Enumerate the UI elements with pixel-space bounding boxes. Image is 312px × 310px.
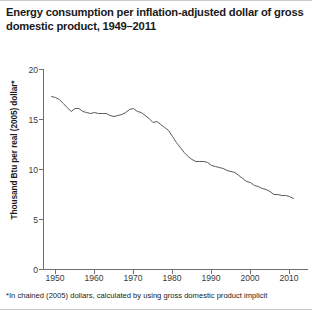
chart-figure: Energy consumption per inflation-adjuste… (0, 0, 312, 310)
y-tick-label: 15 (16, 115, 38, 125)
line-chart-canvas (0, 53, 312, 285)
x-tick-label: 1960 (79, 273, 109, 283)
data-series-line (52, 97, 294, 199)
x-axis-tick-labels: 1950 1960 1970 1980 1990 2000 2010 (0, 269, 312, 289)
chart-footnote: *In chained (2005) dollars, calculated b… (6, 291, 310, 301)
x-tick-label: 1990 (196, 273, 226, 283)
x-tick-label: 2000 (235, 273, 265, 283)
y-tick-label: 5 (16, 215, 38, 225)
plot-area: Thousand Btu per real (2005) dollar* 0 5… (0, 53, 312, 285)
x-tick-label: 2010 (274, 273, 304, 283)
y-tick-label: 20 (16, 65, 38, 75)
y-axis-ticks (39, 70, 44, 270)
x-tick-label: 1980 (157, 273, 187, 283)
x-tick-label: 1950 (40, 273, 70, 283)
y-tick-label: 10 (16, 165, 38, 175)
x-tick-label: 1970 (118, 273, 148, 283)
chart-title: Energy consumption per inflation-adjuste… (6, 5, 306, 33)
axis-lines (44, 69, 309, 270)
y-axis-tick-labels: 0 5 10 15 20 (10, 53, 38, 285)
